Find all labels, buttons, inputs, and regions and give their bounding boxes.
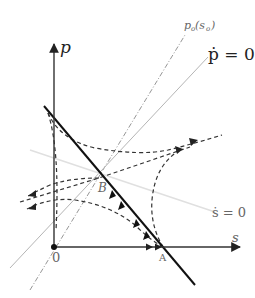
p-axis-label: p [60,37,71,57]
saddle-path-arrowheads [109,190,150,240]
arrow-icon [28,190,36,197]
arrow-icon [143,231,150,240]
arrow-icon [28,203,36,210]
p-o-label: p o (s o ) [184,19,215,33]
phase-diagram: p s 0 B A ṗ = 0 ṡ = 0 p o (s o ) [0,0,255,298]
s-axis-label: s [232,230,239,245]
s-dot-zero-line [30,150,215,212]
arrow-icon [146,244,153,251]
p-o-label-arg: (s [195,19,205,32]
point-a-label: A [158,252,167,263]
p-o-label-main: p [184,19,191,32]
p-o-label-close: ) [210,19,215,32]
point-b-label: B [97,181,107,195]
p-o-label-arg-sub: o [206,25,210,33]
p-dot-zero-line [10,57,208,268]
p-dot-zero-label: ṗ = 0 [208,44,255,64]
s-dot-zero-label: ṡ = 0 [212,205,246,220]
saddle-path [44,106,195,285]
origin-label: 0 [52,250,60,265]
arrow-icon [118,201,125,210]
